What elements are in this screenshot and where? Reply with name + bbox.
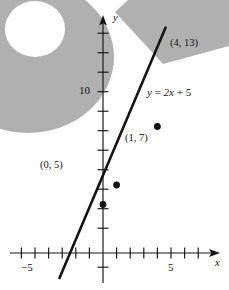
x-tick-label-minus-5: −5: [21, 262, 33, 273]
x-tick-label-5: 5: [168, 262, 174, 273]
graph-figure: y x 10 −5 5 (0, 5) (1, 7) (4, 13) y = 2x…: [0, 0, 229, 290]
y-axis-label: y: [113, 13, 118, 24]
data-point-0-5: [100, 201, 107, 208]
y-tick-label-10: 10: [79, 85, 90, 96]
equation-label: y = 2x + 5: [147, 87, 191, 98]
point-label-4-13: (4, 13): [170, 38, 198, 49]
equation-slope-term: 2x: [164, 86, 174, 98]
point-label-0-5: (0, 5): [40, 160, 63, 171]
data-point-4-13: [154, 123, 161, 130]
x-axis-label: x: [215, 258, 220, 269]
equation-intercept: 5: [186, 86, 192, 98]
data-point-1-7: [113, 182, 120, 189]
point-label-1-7: (1, 7): [125, 133, 148, 144]
